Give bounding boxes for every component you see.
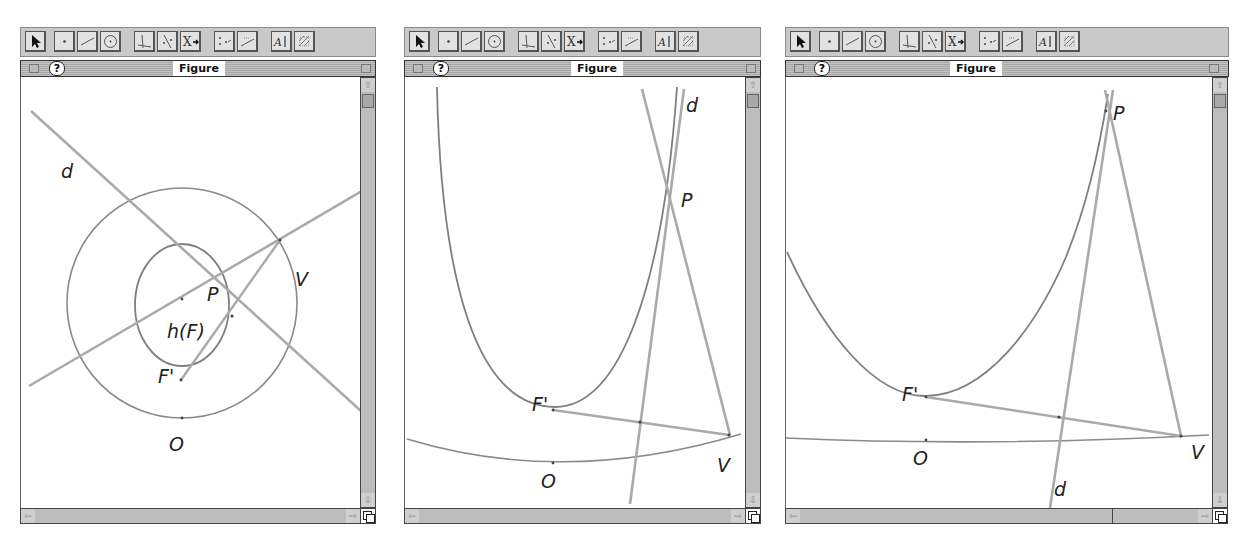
point-mid[interactable] — [230, 314, 233, 317]
appearance-tool-button[interactable] — [294, 31, 315, 52]
scroll-thumb[interactable] — [747, 94, 759, 108]
point-tool-button[interactable] — [438, 31, 459, 52]
scroll-right-arrow[interactable]: ⇨ — [731, 509, 745, 523]
scroll-down-arrow[interactable]: ⇩ — [1213, 493, 1227, 507]
figure-canvas[interactable]: d P V F' O — [404, 77, 745, 508]
point-hF[interactable] — [181, 298, 184, 301]
symmetry-tool-button[interactable] — [157, 31, 178, 52]
text-tool-button[interactable]: A — [1036, 31, 1057, 52]
point-V[interactable] — [727, 433, 730, 436]
point-V[interactable] — [1179, 434, 1182, 437]
text-tool-button[interactable]: A — [271, 31, 292, 52]
scroll-right-arrow[interactable]: ⇨ — [1198, 509, 1212, 523]
circle-tool-button[interactable] — [865, 31, 886, 52]
zoom-box[interactable] — [746, 64, 756, 73]
scroll-down-arrow[interactable]: ⇩ — [361, 493, 375, 507]
window-titlebar[interactable]: ? Figure — [785, 60, 1229, 77]
text-icon: A — [273, 33, 290, 50]
resize-grow-box[interactable] — [1212, 508, 1228, 524]
locus-tool-button[interactable] — [214, 31, 235, 52]
point-O[interactable] — [181, 417, 184, 420]
close-box[interactable] — [413, 64, 423, 73]
pointer-tool-button[interactable] — [790, 31, 811, 52]
scroll-thumb[interactable] — [362, 94, 374, 108]
point-O[interactable] — [925, 439, 928, 442]
circle-tool-button[interactable] — [484, 31, 505, 52]
transform-tool-button[interactable]: X — [564, 31, 585, 52]
pointer-tool-button[interactable] — [25, 31, 46, 52]
circle-tool-button[interactable] — [100, 31, 121, 52]
help-button[interactable]: ? — [49, 61, 65, 76]
perpendicular-tool-button[interactable] — [518, 31, 539, 52]
point-icon — [440, 33, 457, 50]
point-P[interactable] — [1105, 110, 1108, 113]
scroll-left-arrow[interactable]: ⇦ — [21, 509, 35, 523]
line-tool-button[interactable] — [77, 31, 98, 52]
perpendicular-icon — [520, 33, 537, 50]
line-icon — [463, 33, 480, 50]
resize-grow-box[interactable] — [360, 508, 376, 524]
line-tool-button[interactable] — [461, 31, 482, 52]
point-Fp[interactable] — [925, 396, 928, 399]
close-box[interactable] — [29, 64, 39, 73]
horizontal-scrollbar[interactable]: ⇦ ⇨ — [20, 508, 361, 524]
text-tool-button[interactable]: A — [655, 31, 676, 52]
vertical-scrollbar[interactable]: ⇧ ⇩ — [1212, 77, 1228, 508]
svg-text:X: X — [567, 35, 576, 49]
measure-icon — [1004, 33, 1021, 50]
point-V[interactable] — [278, 238, 281, 241]
vertical-scrollbar[interactable]: ⇧ ⇩ — [745, 77, 761, 508]
transform-tool-button[interactable]: X — [945, 31, 966, 52]
scroll-up-arrow[interactable]: ⇧ — [1213, 78, 1227, 92]
measure-tool-button[interactable] — [621, 31, 642, 52]
pointer-tool-button[interactable] — [409, 31, 430, 52]
perpendicular-tool-button[interactable] — [134, 31, 155, 52]
horizontal-scrollbar[interactable]: ⇦ ⇨ — [785, 508, 1213, 524]
appearance-tool-button[interactable] — [678, 31, 699, 52]
zoom-box[interactable] — [1209, 64, 1219, 73]
measure-tool-button[interactable] — [1002, 31, 1023, 52]
close-box[interactable] — [794, 64, 804, 73]
zoom-box[interactable] — [361, 64, 371, 73]
figure-canvas[interactable]: P V F' O d — [785, 77, 1212, 508]
appearance-icon — [296, 33, 313, 50]
scroll-up-arrow[interactable]: ⇧ — [361, 78, 375, 92]
ellipse-curve — [135, 244, 229, 366]
help-button[interactable]: ? — [433, 61, 449, 76]
figure-canvas[interactable]: d P V h(F) F' O — [20, 77, 360, 508]
scroll-right-arrow[interactable]: ⇨ — [346, 509, 360, 523]
perpendicular-tool-button[interactable] — [899, 31, 920, 52]
point-mid[interactable] — [1057, 415, 1060, 418]
scroll-up-arrow[interactable]: ⇧ — [746, 78, 760, 92]
point-icon — [821, 33, 838, 50]
point-tool-button[interactable] — [54, 31, 75, 52]
figure-window-1: X A ? Figure d — [20, 27, 376, 524]
window-titlebar[interactable]: ? Figure — [20, 60, 376, 77]
symmetry-tool-button[interactable] — [922, 31, 943, 52]
point-Fp[interactable] — [180, 379, 183, 382]
horizontal-scroll-thumb[interactable] — [1112, 509, 1113, 523]
window-titlebar[interactable]: ? Figure — [404, 60, 761, 77]
scroll-down-arrow[interactable]: ⇩ — [746, 493, 760, 507]
appearance-tool-button[interactable] — [1059, 31, 1080, 52]
perpendicular-icon — [901, 33, 918, 50]
transform-tool-button[interactable]: X — [180, 31, 201, 52]
resize-grow-box[interactable] — [745, 508, 761, 524]
measure-tool-button[interactable] — [237, 31, 258, 52]
scroll-left-arrow[interactable]: ⇦ — [405, 509, 419, 523]
locus-tool-button[interactable] — [979, 31, 1000, 52]
horizontal-scrollbar[interactable]: ⇦ ⇨ — [404, 508, 746, 524]
point-Fp[interactable] — [552, 409, 555, 412]
vertical-scrollbar[interactable]: ⇧ ⇩ — [360, 77, 376, 508]
scroll-left-arrow[interactable]: ⇦ — [786, 509, 800, 523]
transform-icon: X — [566, 33, 583, 50]
locus-tool-button[interactable] — [598, 31, 619, 52]
symmetry-tool-button[interactable] — [541, 31, 562, 52]
point-tool-button[interactable] — [819, 31, 840, 52]
line-tool-button[interactable] — [842, 31, 863, 52]
point-mid[interactable] — [638, 420, 641, 423]
point-O[interactable] — [552, 462, 555, 465]
help-button[interactable]: ? — [814, 61, 830, 76]
scroll-thumb[interactable] — [1214, 94, 1226, 108]
window-title: Figure — [950, 61, 1002, 76]
